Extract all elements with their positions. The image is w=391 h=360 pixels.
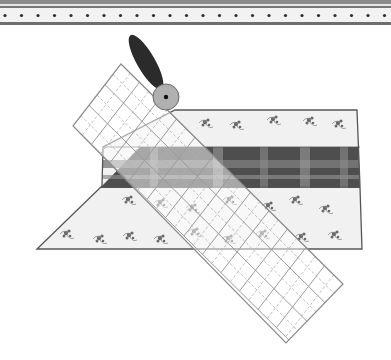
border-dot bbox=[135, 14, 138, 17]
border-stripe-gap bbox=[0, 4, 391, 6]
border-dot bbox=[119, 14, 122, 17]
cutter-hub-icon bbox=[164, 95, 168, 99]
border-dot bbox=[53, 14, 56, 17]
border-dot bbox=[383, 14, 386, 17]
border-dot bbox=[36, 14, 39, 17]
border-dot bbox=[284, 14, 287, 17]
border-dot bbox=[20, 14, 23, 17]
border-dot-band bbox=[0, 8, 391, 22]
border-dot bbox=[201, 14, 204, 17]
border-dot bbox=[317, 14, 320, 17]
border-dot bbox=[86, 14, 89, 17]
border-stripe-mid bbox=[0, 6, 391, 8]
border-stripe-bottom bbox=[0, 22, 391, 25]
border-dot bbox=[3, 14, 6, 17]
border-dot bbox=[152, 14, 155, 17]
border-dot bbox=[300, 14, 303, 17]
border-dot bbox=[69, 14, 72, 17]
border-dot bbox=[234, 14, 237, 17]
border-dot bbox=[185, 14, 188, 17]
border-dot bbox=[168, 14, 171, 17]
border-dot bbox=[102, 14, 105, 17]
quilting-illustration bbox=[0, 0, 391, 360]
border-dot bbox=[251, 14, 254, 17]
top-border bbox=[0, 0, 391, 25]
border-dot bbox=[366, 14, 369, 17]
border-dot bbox=[267, 14, 270, 17]
border-dot bbox=[333, 14, 336, 17]
border-dot bbox=[218, 14, 221, 17]
border-stripe-top bbox=[0, 0, 391, 4]
border-dot bbox=[350, 14, 353, 17]
